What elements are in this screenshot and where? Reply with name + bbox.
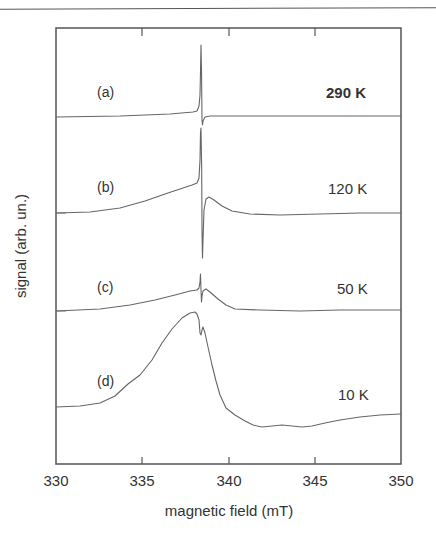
x-tick-330: 330: [43, 472, 68, 489]
x-tick-350: 350: [388, 472, 413, 489]
temp-label-290K: 290 K: [326, 84, 366, 101]
x-tick-345: 345: [302, 472, 327, 489]
curve-d-10K: [56, 312, 401, 427]
label-a: (a): [97, 84, 114, 100]
top-ticks: [142, 28, 315, 36]
temp-label-50K: 50 K: [337, 280, 368, 297]
series-labels: (a) (b) (c) (d): [97, 84, 114, 389]
temp-label-120K: 120 K: [328, 180, 367, 197]
x-tick-340: 340: [216, 472, 241, 489]
temperature-labels: 290 K 120 K 50 K 10 K: [326, 84, 369, 403]
x-axis-label: magnetic field (mT): [165, 502, 293, 519]
x-tick-335: 335: [129, 472, 154, 489]
label-d: (d): [97, 373, 114, 389]
x-tick-labels: 330 335 340 345 350: [43, 472, 413, 489]
temp-label-10K: 10 K: [338, 386, 369, 403]
epr-spectra-chart: 330 335 340 345 350 magnetic field (mT) …: [0, 0, 436, 541]
left-ticks: [56, 213, 66, 311]
label-b: (b): [97, 179, 114, 195]
bottom-ticks: [142, 457, 315, 464]
label-c: (c): [97, 279, 113, 295]
y-axis-label: signal (arb. un.): [12, 194, 29, 298]
